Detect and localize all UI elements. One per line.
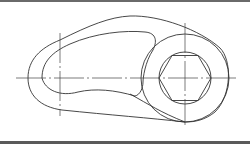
inner-slot (42, 31, 155, 96)
technical-drawing (0, 0, 250, 144)
drawing-canvas (0, 0, 250, 144)
bottom-border (0, 141, 250, 144)
fillet-curve (130, 94, 185, 122)
